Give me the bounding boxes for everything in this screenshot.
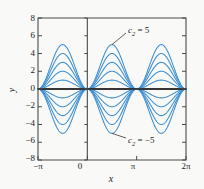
annotation-upper-value: = 5 xyxy=(135,25,149,35)
annotation-leader-lines xyxy=(112,33,126,138)
annotation-c2-negative: c2 = −5 xyxy=(128,136,154,147)
x-tick-label-neg-pi: −π xyxy=(28,162,48,171)
y-tick-label-6: 6 xyxy=(20,31,35,40)
x-tick-label-pi: π xyxy=(123,162,143,171)
chart-figure: 8 6 4 2 0 −2 −4 −6 −8 −π 0 π 2π y x c2 =… xyxy=(0,0,204,189)
annotation-c2-positive: c2 = 5 xyxy=(128,26,149,37)
y-tick-label-8: 8 xyxy=(20,14,35,23)
x-tick-label-zero: 0 xyxy=(70,162,90,171)
x-axis-title: x xyxy=(105,174,117,184)
leader-line-upper xyxy=(112,33,126,45)
annotation-lower-value: = −5 xyxy=(135,135,154,145)
y-tick-label-neg4: −4 xyxy=(16,119,35,128)
y-axis-title: y xyxy=(7,84,17,96)
y-tick-label-2: 2 xyxy=(20,66,35,75)
leader-line-lower xyxy=(112,133,126,138)
y-tick-label-4: 4 xyxy=(20,49,35,58)
x-tick-label-2pi: 2π xyxy=(175,162,197,171)
y-tick-label-neg2: −2 xyxy=(16,101,35,110)
axes-lines xyxy=(38,18,186,160)
y-tick-label-neg6: −6 xyxy=(16,136,35,145)
y-tick-label-0: 0 xyxy=(20,84,35,93)
